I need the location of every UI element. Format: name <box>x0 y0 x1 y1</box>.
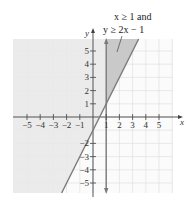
inequality-graph: −5−4−3−2−112345−5−4−3−212345 x ≥ 1 and y… <box>0 0 188 205</box>
y-axis-label: y <box>84 28 89 38</box>
x-tick-label: −5 <box>22 120 32 130</box>
x-tick-label: 1 <box>104 120 109 130</box>
x-tick-label: 5 <box>157 120 162 130</box>
y-tick-label: 3 <box>85 72 90 82</box>
y-tick-label: −4 <box>79 165 89 175</box>
x-tick-label: −3 <box>49 120 59 130</box>
y-tick-label: 5 <box>85 46 90 56</box>
annotation-line-2: y ≥ 2x − 1 <box>103 24 144 35</box>
x-axis-label: x <box>179 117 184 127</box>
y-axis-arrow-icon <box>91 28 95 33</box>
annotation-line-1: x ≥ 1 and <box>114 11 151 22</box>
x-tick-label: −2 <box>62 120 72 130</box>
y-tick-label: 1 <box>85 99 90 109</box>
x-tick-label: 2 <box>117 120 122 130</box>
x-tick-label: 3 <box>130 120 135 130</box>
x-tick-label: −4 <box>35 120 45 130</box>
y-tick-label: 2 <box>85 86 90 96</box>
x-tick-label: 4 <box>144 120 149 130</box>
y-tick-label: −5 <box>79 178 89 188</box>
y-tick-label: 4 <box>85 59 90 69</box>
y-tick-label: −2 <box>79 138 89 148</box>
x-tick-label: −1 <box>75 120 85 130</box>
y-tick-label: −3 <box>79 152 89 162</box>
